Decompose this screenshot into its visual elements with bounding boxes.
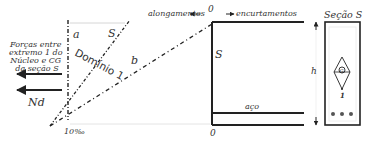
label-a: a <box>73 28 80 41</box>
one-label: 1 <box>340 91 345 100</box>
section-stirrup <box>329 27 356 121</box>
g-label: G <box>340 68 344 74</box>
section-outline <box>325 22 360 125</box>
zero-bottom-label: 0 <box>210 128 216 138</box>
rebar-2 <box>340 112 344 116</box>
rebar-3 <box>349 112 353 116</box>
aco-label: aço <box>245 102 259 111</box>
nd-label: Nd <box>27 96 45 109</box>
rebar-1 <box>331 112 335 116</box>
section-title: Seção S <box>324 9 363 20</box>
beam-s-label: S <box>215 48 223 61</box>
core-extreme-point <box>341 88 343 90</box>
encurtamentos-label: encurtamentos <box>236 9 297 18</box>
h-label: h <box>311 66 317 76</box>
label-b: b <box>131 54 138 67</box>
dominio-label: Domínio 1 <box>73 46 126 82</box>
zero-top-label: 0 <box>208 4 214 14</box>
label-s-line: S <box>108 27 116 40</box>
diagram-canvas: Forças entre extremo 1 do Núcleo e CG da… <box>0 0 369 141</box>
forces-label: Forças entre extremo 1 do Núcleo e CG da… <box>9 40 65 73</box>
strain-10-label: 10‰ <box>64 127 85 136</box>
